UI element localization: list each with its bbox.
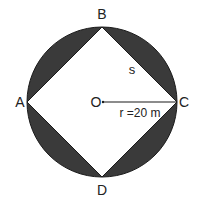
side-label-s: s [129,62,136,77]
vertex-label-a: A [15,94,25,110]
vertex-label-d: D [97,182,107,198]
circle-square-diagram: B A C D O r =20 m s [0,0,198,210]
vertex-label-b: B [97,6,106,22]
radius-label: r =20 m [119,106,160,120]
vertex-label-c: C [179,94,189,110]
center-point [102,101,104,103]
center-label-o: O [91,94,102,110]
